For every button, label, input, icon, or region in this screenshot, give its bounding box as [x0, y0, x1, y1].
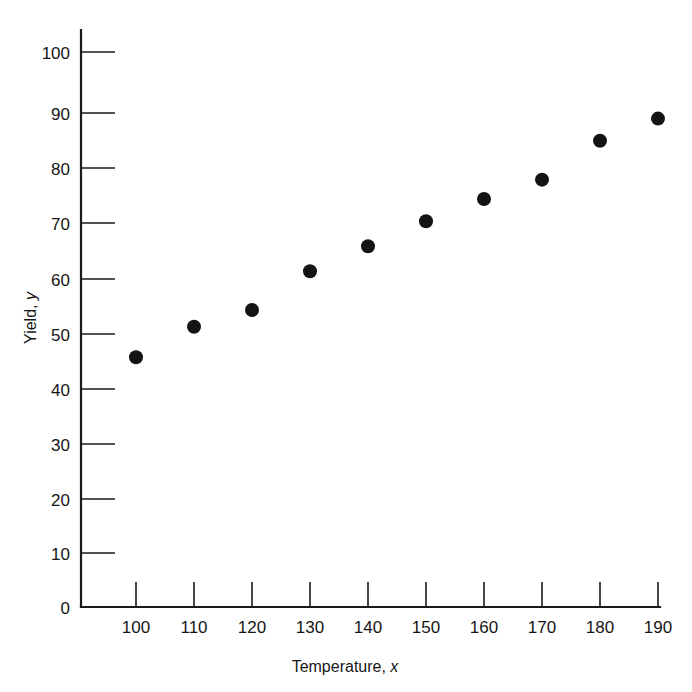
data-point: [651, 112, 665, 126]
x-tick-label-170: 170: [528, 618, 556, 637]
x-tick-label-120: 120: [238, 618, 266, 637]
x-tick-label-190: 190: [644, 618, 672, 637]
x-tick-label-110: 110: [180, 618, 207, 637]
x-axis-title-variable: x: [389, 658, 399, 675]
x-axis-title-text: Temperature,: [292, 658, 386, 675]
x-tick-label-180: 180: [586, 618, 614, 637]
data-point: [303, 264, 317, 278]
x-tick-label-140: 140: [354, 618, 382, 637]
y-axis-title: Yield, y: [22, 291, 39, 344]
y-axis-title-variable: y: [22, 291, 39, 301]
x-tick-label-160: 160: [470, 618, 498, 637]
y-tick-label-100: 100: [42, 44, 70, 63]
data-point: [593, 134, 607, 148]
scatter-plot-figure: 100 90 80 70 60 50 40 30 20 10 0: [0, 0, 692, 692]
data-point: [535, 173, 549, 187]
x-axis-title: Temperature, x: [292, 658, 400, 675]
y-tick-label-30: 30: [51, 436, 70, 455]
y-tick-label-80: 80: [51, 160, 70, 179]
data-point: [477, 192, 491, 206]
y-tick-label-40: 40: [51, 381, 70, 400]
y-tick-label-70: 70: [51, 215, 70, 234]
data-point: [419, 214, 433, 228]
y-tick-label-50: 50: [51, 326, 70, 345]
y-tick-label-90: 90: [51, 105, 70, 124]
x-tick-label-150: 150: [412, 618, 440, 637]
y-tick-label-0: 0: [61, 599, 70, 618]
y-tick-label-10: 10: [51, 545, 70, 564]
data-point: [361, 239, 375, 253]
data-point: [187, 320, 201, 334]
data-point: [245, 303, 259, 317]
x-tick-label-130: 130: [296, 618, 324, 637]
y-axis-title-text: Yield,: [22, 305, 39, 344]
y-tick-label-60: 60: [51, 271, 70, 290]
x-tick-label-100: 100: [122, 618, 150, 637]
plot-background: [0, 0, 692, 692]
plot-canvas: 100 90 80 70 60 50 40 30 20 10 0: [0, 0, 692, 692]
y-tick-label-20: 20: [51, 491, 70, 510]
data-point: [129, 350, 143, 364]
